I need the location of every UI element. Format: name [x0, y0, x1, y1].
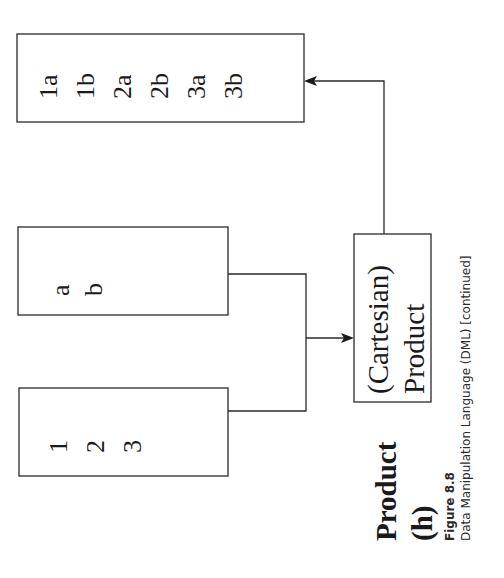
- operator-label-line1: (Cartesian): [362, 265, 395, 394]
- figure-number: Figure 8.8: [443, 472, 457, 541]
- result-value: 3b: [219, 73, 248, 99]
- product-diagram: 1a 1b 2a 2b 3a 3b a b 1 2 3 (Cartesian) …: [0, 0, 504, 578]
- result-value: 1a: [34, 74, 63, 99]
- operation-letter: (h): [406, 506, 439, 541]
- result-value: 2a: [108, 74, 137, 99]
- input-1-value: 2: [81, 440, 110, 453]
- output-connector: [312, 81, 384, 234]
- input-table-1-values: 1 2 3: [44, 440, 147, 453]
- input-table-2-box: [18, 227, 228, 315]
- operation-title: Product: [370, 441, 402, 541]
- input-1-value: 3: [118, 440, 147, 453]
- result-value: 1b: [71, 73, 100, 99]
- input-table-1-box: [19, 388, 228, 476]
- input-connector: [228, 274, 306, 411]
- result-value: 3a: [182, 74, 211, 99]
- input-2-value: a: [46, 284, 75, 296]
- result-value: 2b: [145, 73, 174, 99]
- input-1-value: 1: [44, 440, 73, 453]
- input-2-value: b: [79, 283, 108, 296]
- operator-label-line2: Product: [398, 304, 430, 394]
- figure-caption: Data Manipulation Language (DML) [contin…: [459, 256, 473, 541]
